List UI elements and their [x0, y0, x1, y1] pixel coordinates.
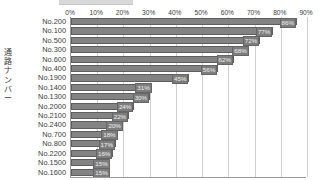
- bar-row: 15%: [71, 168, 307, 177]
- plot-area: 86%77%72%68%62%56%45%31%30%24%22%20%18%1…: [70, 17, 307, 177]
- x-axis-tick-label: 10%: [90, 8, 103, 17]
- bar[interactable]: [71, 18, 297, 25]
- bar-row: 17%: [71, 139, 307, 148]
- x-axis-tick-label: 60%: [221, 8, 234, 17]
- x-axis-tick-label: 30%: [142, 8, 155, 17]
- category-label: No.100: [16, 26, 68, 35]
- category-label: No.1400: [16, 83, 68, 92]
- bar[interactable]: [71, 56, 234, 63]
- bar-row: 86%: [71, 17, 307, 26]
- bottom-axis-line: [70, 177, 306, 178]
- bar-row: 16%: [71, 149, 307, 158]
- x-axis-tick-label: 20%: [116, 8, 129, 17]
- category-label: No.2200: [16, 149, 68, 158]
- category-labels: No.200No.100No.500No.300No.600No.400No.1…: [16, 17, 68, 177]
- bar-row: 31%: [71, 83, 307, 92]
- bar[interactable]: [71, 37, 260, 44]
- category-label: No.300: [16, 45, 68, 54]
- x-axis-tick-label: 50%: [195, 8, 208, 17]
- x-axis-tick-label: 70%: [247, 8, 260, 17]
- bar-row: 62%: [71, 55, 307, 64]
- category-label: No.800: [16, 139, 68, 148]
- bar[interactable]: [71, 46, 249, 53]
- category-label: No.1600: [16, 168, 68, 177]
- x-axis-tick-label: 40%: [168, 8, 181, 17]
- category-label: No.200: [16, 17, 68, 26]
- bar-row: 77%: [71, 26, 307, 35]
- bar-row: 30%: [71, 92, 307, 101]
- category-label: No.1500: [16, 158, 68, 167]
- bar-row: 56%: [71, 64, 307, 73]
- y-axis-title-char: ナ: [1, 66, 15, 75]
- y-axis-title-char: ン: [1, 76, 15, 85]
- category-label: No.600: [16, 55, 68, 64]
- bar-row: 22%: [71, 111, 307, 120]
- bar-row: 15%: [71, 158, 307, 167]
- y-axis-title-char: ー: [1, 94, 15, 103]
- bar-chart: 通路ナンバー 0%10%20%30%40%50%60%70%80%90% No.…: [0, 0, 321, 180]
- y-axis-title-char: 路: [1, 57, 15, 66]
- bar-row: 18%: [71, 130, 307, 139]
- bar-row: 20%: [71, 120, 307, 129]
- chart-top-strip: [59, 0, 133, 5]
- bar-row: 68%: [71, 45, 307, 54]
- gridline: [307, 17, 308, 177]
- x-axis-tick-labels: 0%10%20%30%40%50%60%70%80%90%: [70, 8, 306, 17]
- bar-row: 72%: [71, 36, 307, 45]
- y-axis-title-char: 通: [1, 48, 15, 57]
- category-label: No.2000: [16, 102, 68, 111]
- category-label: No.1900: [16, 73, 68, 82]
- bar[interactable]: [71, 65, 218, 72]
- category-label: No.2400: [16, 120, 68, 129]
- y-axis-title-char: バ: [1, 85, 15, 94]
- bar-row: 45%: [71, 73, 307, 82]
- bar[interactable]: [71, 27, 273, 34]
- category-label: No.2100: [16, 111, 68, 120]
- category-label: No.500: [16, 36, 68, 45]
- x-axis-tick-label: 0%: [65, 8, 75, 17]
- category-label: No.1300: [16, 92, 68, 101]
- bar-row: 24%: [71, 102, 307, 111]
- x-axis-tick-label: 80%: [273, 8, 286, 17]
- category-label: No.700: [16, 130, 68, 139]
- category-label: No.400: [16, 64, 68, 73]
- y-axis-title: 通路ナンバー: [1, 48, 15, 103]
- x-axis-tick-label: 90%: [299, 8, 312, 17]
